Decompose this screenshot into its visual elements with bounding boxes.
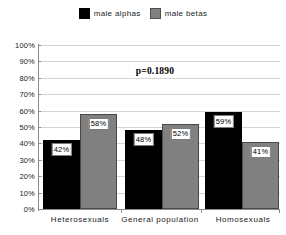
y-tick-label-30: 30% (1, 155, 35, 164)
bar-value-label: 52% (170, 128, 190, 141)
legend-label-male-betas: male betas (165, 9, 208, 18)
bar-general-population-male-alphas[interactable]: 48% (125, 130, 162, 209)
x-tick-mark-2 (201, 209, 202, 213)
y-tick-label-40: 40% (1, 139, 35, 148)
y-tick-label-50: 50% (1, 123, 35, 132)
y-tick-label-20: 20% (1, 172, 35, 181)
y-tick-mark-0 (38, 209, 41, 210)
x-tick-label-general-population: General population (121, 215, 199, 224)
bar-chart: male alphas male betas 100% 90% 80% 70 (0, 0, 286, 235)
bar-value-label: 41% (250, 146, 270, 159)
bar-value-label: 48% (133, 133, 153, 146)
legend-item-male-betas: male betas (150, 8, 208, 19)
x-tick-mark-1 (121, 209, 122, 213)
x-tick-label-homosexuals: Homosexuals (216, 215, 271, 224)
y-tick-label-100: 100% (1, 41, 35, 50)
y-tick-label-70: 70% (1, 90, 35, 99)
bar-heterosexuals-male-alphas[interactable]: 42% (43, 140, 80, 209)
bar-value-label: 59% (213, 115, 233, 128)
y-tick-label-60: 60% (1, 106, 35, 115)
y-tick-label-90: 90% (1, 57, 35, 66)
chart-legend: male alphas male betas (0, 8, 286, 19)
gridline-baseline (38, 209, 280, 210)
bar-value-label: 58% (88, 118, 108, 131)
bar-homosexuals-male-alphas[interactable]: 59% (205, 112, 242, 209)
legend-item-male-alphas: male alphas (79, 8, 141, 19)
gray-square-icon (150, 8, 161, 19)
bar-general-population-male-betas[interactable]: 52% (162, 124, 199, 209)
y-tick-label-0: 0% (1, 205, 35, 214)
legend-label-male-alphas: male alphas (94, 9, 141, 18)
x-axis-labels: Heterosexuals General population Homosex… (38, 215, 280, 229)
black-square-icon (79, 8, 90, 19)
bar-heterosexuals-male-betas[interactable]: 58% (80, 114, 117, 209)
bar-homosexuals-male-betas[interactable]: 41% (242, 142, 279, 209)
bar-value-label: 42% (51, 143, 71, 156)
x-tick-mark-3 (279, 209, 280, 213)
pvalue-annotation: p=0.1890 (0, 66, 286, 76)
y-tick-label-10: 10% (1, 188, 35, 197)
x-tick-label-heterosexuals: Heterosexuals (51, 215, 109, 224)
